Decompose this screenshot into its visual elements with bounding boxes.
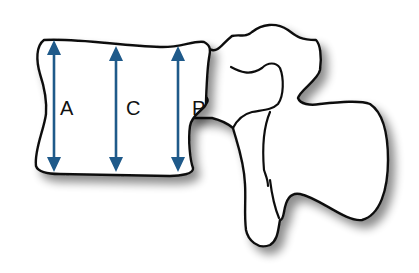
anterior-label: A <box>60 98 73 118</box>
vertebra-diagram <box>0 0 419 273</box>
posterior-label: P <box>192 98 205 118</box>
central-label: C <box>126 98 140 118</box>
posterior-elements <box>190 25 388 246</box>
spinous-transverse-process-outline <box>190 25 388 246</box>
